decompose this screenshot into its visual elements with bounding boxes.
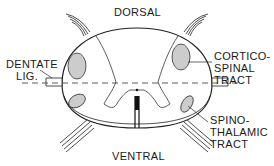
spino-label-line1: SPINO-: [210, 114, 250, 126]
ventral-root-left: [60, 119, 94, 152]
spino-label-line2: THALAMIC: [210, 126, 268, 138]
dorsal-label: DORSAL: [114, 6, 161, 18]
dorsal-root-right: [184, 14, 208, 36]
spino-label-line3: TRACT: [210, 138, 248, 150]
cord-outline: [62, 28, 212, 128]
ventral-label: VENTRAL: [112, 150, 165, 162]
dorsal-root-left: [66, 14, 90, 36]
cortico-label-line1: CORTICO-: [214, 50, 271, 62]
cortico-label-line2: SPINAL: [214, 62, 255, 74]
corticospinal-tract-right: [172, 44, 190, 70]
dentate-ligament-left: [46, 78, 62, 86]
dentate-label-line2: LIG.: [16, 70, 38, 82]
cortico-label-line3: TRACT: [214, 74, 252, 86]
corticospinal-tract-left: [68, 53, 86, 79]
dentate-leader: [40, 70, 52, 78]
ventral-root-right: [180, 119, 214, 152]
dentate-label-line1: DENTATE: [6, 58, 58, 70]
